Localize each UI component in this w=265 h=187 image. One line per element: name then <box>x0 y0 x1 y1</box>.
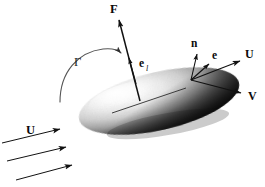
freestream-arrow-3 <box>16 165 72 180</box>
circulation-label: Γ <box>74 55 81 69</box>
freestream-group: U <box>2 123 72 180</box>
aerodynamic-force-diagram: Γ F e l n e U V <box>0 0 265 187</box>
lift-unit-vector-label: e <box>139 57 144 69</box>
normal-label: n <box>191 37 198 49</box>
force-label: F <box>110 2 118 16</box>
velocity-u-label: U <box>245 47 254 61</box>
unit-vector-e-label: e <box>212 49 217 61</box>
velocity-v-label: V <box>248 89 257 103</box>
freestream-label: U <box>26 123 35 137</box>
figure-root: Γ F e l n e U V <box>0 0 265 187</box>
freestream-arrow-2 <box>7 147 66 161</box>
lift-unit-vector-subscript-label: l <box>146 64 149 73</box>
